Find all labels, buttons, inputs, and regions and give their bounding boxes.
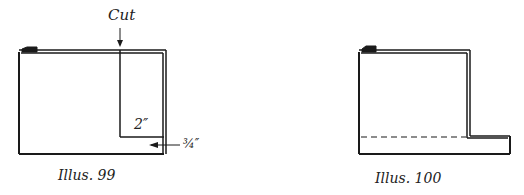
height-dimension-label: 2″	[134, 116, 148, 132]
width-dimension-label: ¾″	[183, 137, 199, 151]
illus-100-caption: Illus. 100	[375, 170, 441, 186]
illustrations-drawing	[0, 0, 524, 195]
illus-99-shape	[19, 28, 180, 154]
diagram-stage: Cut 2″ ¾″ Illus. 99 Illus. 100	[0, 0, 524, 195]
illus-100-shape	[359, 46, 510, 154]
cut-label: Cut	[108, 6, 135, 24]
illus-99-caption: Illus. 99	[58, 167, 115, 183]
